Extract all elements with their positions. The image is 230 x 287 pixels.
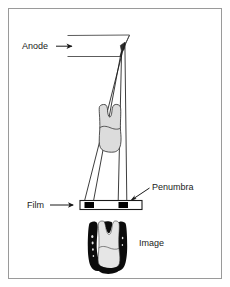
anode-label: Anode (22, 41, 48, 51)
beam-edge-outer-right (125, 43, 127, 201)
penumbra-band-right (119, 202, 129, 208)
penumbra-label: Penumbra (152, 182, 194, 192)
image-label-group: Image (139, 238, 164, 248)
penumbra-diagram: Anode Film Penumbra Image (0, 0, 230, 287)
arrow-right-icon (56, 43, 73, 49)
arrow-right-icon (50, 202, 74, 208)
image-label: Image (139, 238, 164, 248)
film-label: Film (27, 200, 44, 210)
film-strip (80, 201, 142, 210)
penumbra-label-group: Penumbra (130, 182, 193, 201)
film-label-group: Film (27, 200, 74, 210)
anode-label-group: Anode (22, 41, 73, 51)
radiograph-image (88, 221, 127, 274)
figure-root: Anode Film Penumbra Image (0, 0, 230, 287)
penumbra-band-left (85, 202, 95, 208)
arrow-down-left-icon (130, 188, 149, 201)
